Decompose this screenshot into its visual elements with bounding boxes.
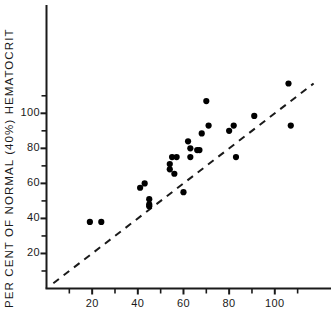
data-point — [174, 154, 180, 160]
data-point — [137, 185, 143, 191]
data-point — [185, 138, 191, 144]
data-points-group — [87, 80, 294, 225]
y-tick-label: 80 — [10, 141, 40, 153]
data-point — [285, 80, 291, 86]
x-tick-label: 80 — [214, 297, 244, 309]
x-tick-label: 40 — [123, 297, 153, 309]
scatter-plot-canvas — [0, 0, 331, 310]
data-point — [146, 203, 152, 209]
x-tick-label: 20 — [77, 297, 107, 309]
y-tick-label: 100 — [10, 106, 40, 118]
data-point — [187, 145, 193, 151]
data-point — [199, 130, 205, 136]
identity-reference-line — [53, 84, 313, 284]
data-point — [167, 166, 173, 172]
data-point — [205, 122, 211, 128]
y-tick-label: 20 — [10, 246, 40, 258]
data-point — [187, 154, 193, 160]
data-point — [233, 154, 239, 160]
x-tick-label: 60 — [168, 297, 198, 309]
data-point — [231, 122, 237, 128]
data-point — [226, 128, 232, 134]
identity-line — [53, 84, 313, 284]
chart-figure: PER CENT OF NORMAL (40%) HEMATOCRIT 2040… — [0, 0, 331, 310]
data-point — [251, 113, 257, 119]
x-tick-label: 100 — [260, 297, 290, 309]
data-point — [196, 147, 202, 153]
data-point — [180, 189, 186, 195]
data-point — [288, 122, 294, 128]
y-tick-label: 40 — [10, 211, 40, 223]
data-point — [171, 171, 177, 177]
data-point — [203, 98, 209, 104]
data-point — [98, 219, 104, 225]
data-point — [142, 180, 148, 186]
data-point — [87, 219, 93, 225]
y-tick-label: 60 — [10, 176, 40, 188]
